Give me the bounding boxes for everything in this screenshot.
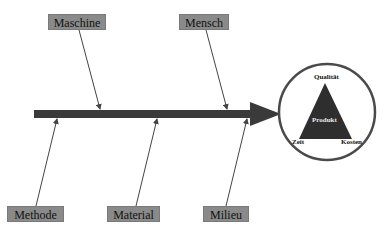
bone-material <box>136 119 157 206</box>
cause-label-milieu: Milieu <box>203 206 249 222</box>
cause-label-mensch: Mensch <box>179 14 229 30</box>
cause-label-material: Material <box>107 206 160 222</box>
vertex-label-time: Zeit <box>292 138 304 146</box>
effect-center-label: Produkt <box>312 116 337 124</box>
vertex-label-quality: Qualität <box>314 73 339 81</box>
spine-arrowhead <box>250 102 281 126</box>
bone-maschine <box>79 30 100 109</box>
fishbone-diagram: Maschine Mensch Methode Material Milieu … <box>0 0 388 237</box>
spine-bar <box>34 110 256 118</box>
cause-label-methode: Methode <box>7 206 64 222</box>
bone-mensch <box>206 30 227 109</box>
bone-methode <box>36 119 57 206</box>
cause-label-maschine: Maschine <box>48 14 106 30</box>
bone-milieu <box>226 119 247 206</box>
vertex-label-cost: Kosten <box>341 138 362 146</box>
